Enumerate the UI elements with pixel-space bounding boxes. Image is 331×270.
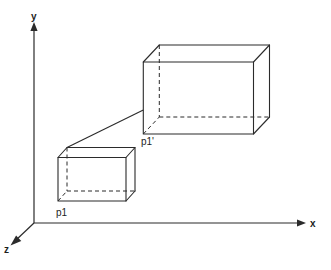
small-box bbox=[58, 148, 135, 202]
large-box-depth-edge-top-left bbox=[143, 45, 159, 62]
point-label-p1-prime: p1' bbox=[141, 137, 154, 147]
small-box-depth-edge-top-right bbox=[126, 148, 135, 158]
diagram-svg bbox=[0, 0, 331, 270]
small-box-back-face bbox=[67, 148, 135, 192]
small-box-hidden-depth-edge bbox=[58, 191, 67, 201]
x-axis-arrowhead bbox=[297, 219, 306, 226]
large-box-hidden-depth-edge bbox=[143, 117, 159, 134]
y-axis-label: y bbox=[31, 12, 37, 22]
x-axis-label: x bbox=[310, 219, 316, 229]
large-box-depth-edge-bottom-right bbox=[254, 117, 270, 134]
large-box bbox=[143, 45, 269, 134]
y-axis-arrowhead bbox=[30, 22, 37, 31]
large-box-front-face bbox=[143, 62, 253, 134]
diagram-canvas: y x z p1 p1' bbox=[0, 0, 331, 270]
small-box-front-face bbox=[58, 158, 126, 202]
y-axis bbox=[30, 22, 37, 223]
z-axis bbox=[11, 223, 35, 246]
large-box-depth-edge-top-right bbox=[254, 45, 270, 62]
point-label-p1: p1 bbox=[56, 208, 67, 218]
z-axis-label: z bbox=[4, 245, 9, 255]
small-box-depth-edge-top-left bbox=[58, 148, 67, 158]
small-box-depth-edge-bottom-right bbox=[126, 191, 135, 201]
projection-connector-line bbox=[67, 110, 143, 148]
x-axis bbox=[34, 219, 306, 226]
